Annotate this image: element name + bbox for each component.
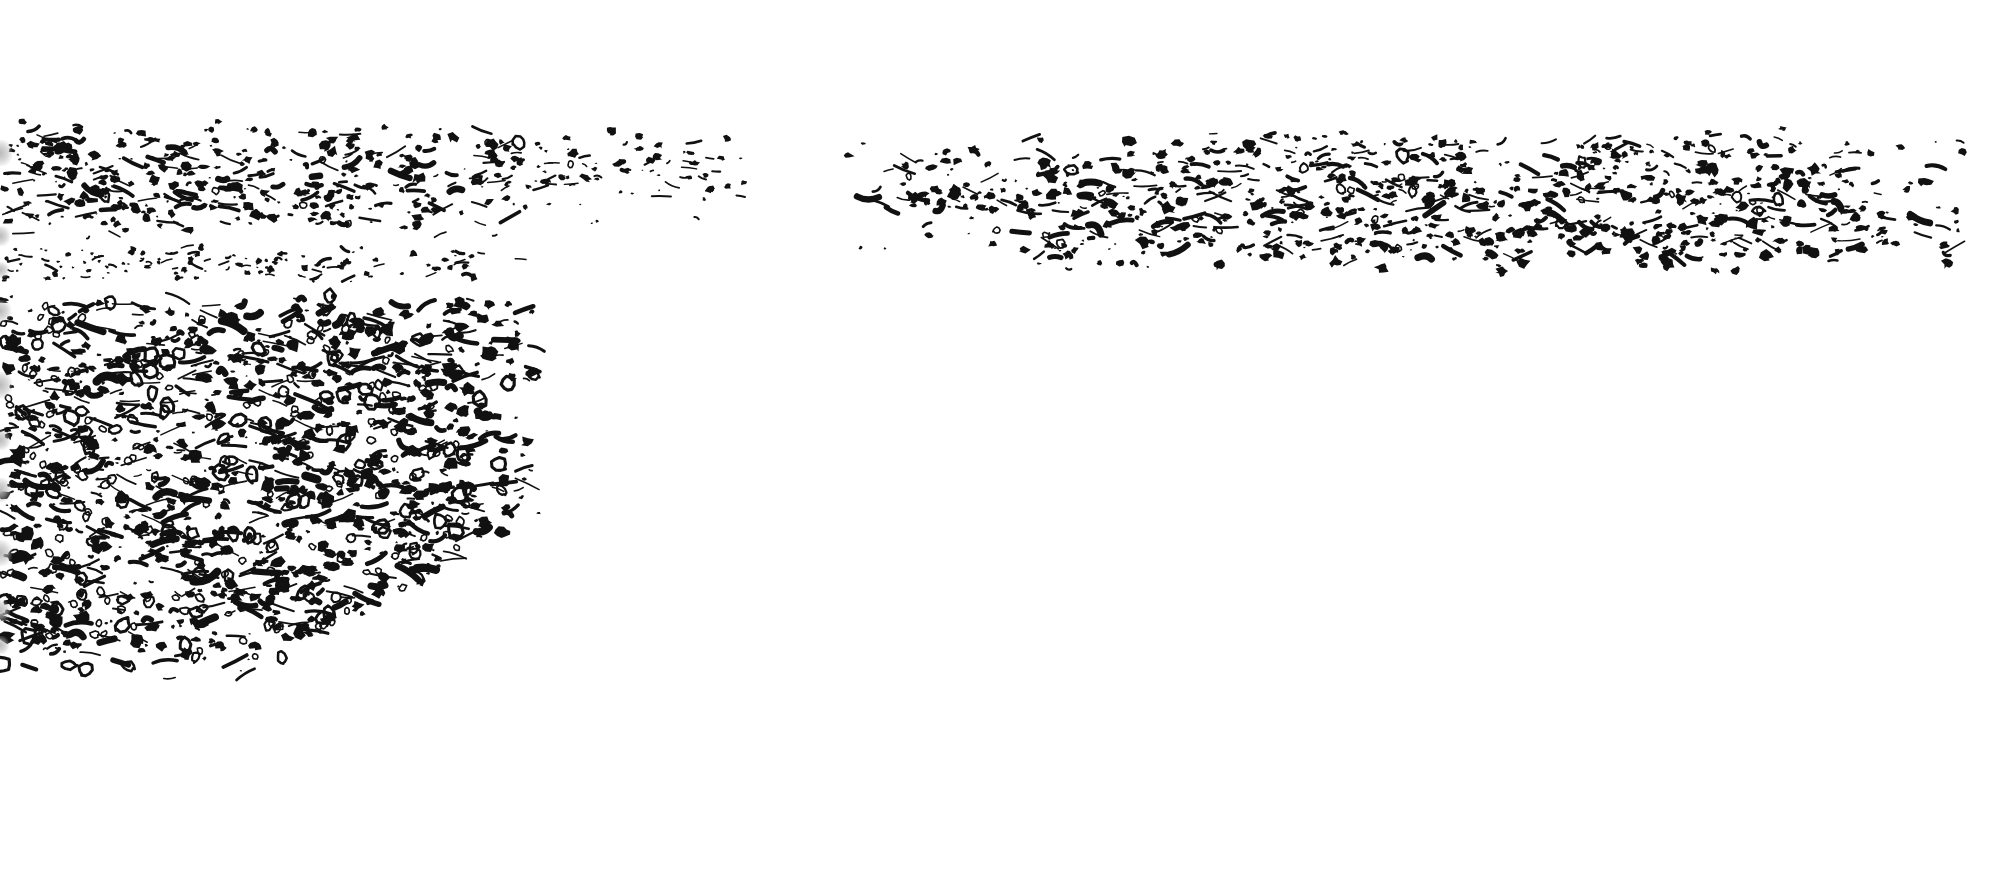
scanned-drawing-page	[0, 0, 2015, 876]
ink-texture-artwork	[0, 0, 2015, 876]
